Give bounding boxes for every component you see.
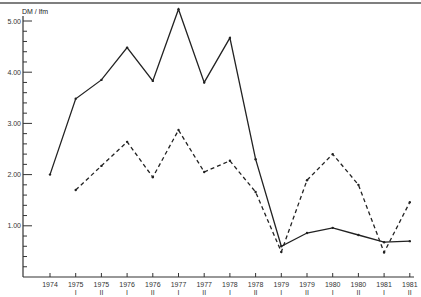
x-tick-label-year: 1974 bbox=[42, 281, 58, 288]
series-solid-line bbox=[50, 9, 410, 246]
x-tick-label-half: I bbox=[332, 289, 334, 296]
data-point bbox=[409, 240, 411, 242]
data-point bbox=[280, 245, 282, 247]
data-point bbox=[126, 46, 128, 48]
line-chart: DM / lfm 5.004.003.002.001.00 19741975I1… bbox=[0, 0, 421, 297]
x-tick-label-year: 1977 bbox=[171, 281, 187, 288]
data-point bbox=[203, 81, 205, 83]
series-layer bbox=[49, 8, 411, 254]
x-tick-label-half: I bbox=[75, 289, 77, 296]
data-point bbox=[306, 232, 308, 234]
x-tick-label-half: I bbox=[229, 289, 231, 296]
x-tick-label-half: II bbox=[254, 289, 258, 296]
x-tick-label-year: 1975 bbox=[94, 281, 110, 288]
data-point bbox=[203, 171, 205, 173]
x-tick-label-year: 1980 bbox=[351, 281, 367, 288]
x-tick-label-half: I bbox=[383, 289, 385, 296]
data-point bbox=[126, 141, 128, 143]
x-tick-label-year: 1975 bbox=[68, 281, 84, 288]
y-tick-label: 5.00 bbox=[7, 18, 21, 25]
data-point bbox=[357, 234, 359, 236]
y-axis: 5.004.003.002.001.00 bbox=[7, 16, 32, 277]
x-tick-label-half: II bbox=[151, 289, 155, 296]
data-point bbox=[332, 153, 334, 155]
y-tick-label: 2.00 bbox=[7, 171, 21, 178]
y-axis-unit-label: DM / lfm bbox=[22, 8, 48, 15]
y-tick-label: 3.00 bbox=[7, 120, 21, 127]
x-tick-label-half: II bbox=[99, 289, 103, 296]
x-tick-label-year: 1977 bbox=[196, 281, 212, 288]
x-axis: 19741975I1975II1976I1976II1977I1977II197… bbox=[23, 273, 418, 296]
data-point bbox=[177, 129, 179, 131]
x-tick-label-year: 1981 bbox=[402, 281, 418, 288]
data-point bbox=[332, 227, 334, 229]
y-tick-label: 1.00 bbox=[7, 222, 21, 229]
data-point bbox=[383, 241, 385, 243]
data-point bbox=[152, 80, 154, 82]
x-tick-label-half: I bbox=[126, 289, 128, 296]
x-tick-label-half: II bbox=[202, 289, 206, 296]
x-tick-label-year: 1976 bbox=[119, 281, 135, 288]
data-point bbox=[280, 251, 282, 253]
data-point bbox=[75, 189, 77, 191]
x-tick-label-half: I bbox=[280, 289, 282, 296]
data-point bbox=[383, 251, 385, 253]
x-tick-label-year: 1979 bbox=[299, 281, 315, 288]
data-point bbox=[49, 173, 51, 175]
data-point bbox=[75, 98, 77, 100]
x-tick-label-year: 1979 bbox=[274, 281, 290, 288]
data-point bbox=[409, 201, 411, 203]
data-point bbox=[100, 79, 102, 81]
x-tick-label-half: II bbox=[305, 289, 309, 296]
x-tick-label-year: 1976 bbox=[145, 281, 161, 288]
data-point bbox=[100, 165, 102, 167]
data-point bbox=[306, 179, 308, 181]
data-point bbox=[229, 37, 231, 39]
data-point bbox=[254, 158, 256, 160]
data-point bbox=[357, 184, 359, 186]
x-tick-label-year: 1978 bbox=[248, 281, 264, 288]
x-tick-label-year: 1980 bbox=[325, 281, 341, 288]
y-tick-label: 4.00 bbox=[7, 69, 21, 76]
x-tick-label-half: II bbox=[356, 289, 360, 296]
series-dashed-line bbox=[76, 130, 410, 252]
data-point bbox=[229, 160, 231, 162]
x-tick-label-half: I bbox=[178, 289, 180, 296]
data-point bbox=[152, 176, 154, 178]
x-tick-label-year: 1981 bbox=[376, 281, 392, 288]
data-point bbox=[177, 8, 179, 10]
x-tick-label-year: 1978 bbox=[222, 281, 238, 288]
x-tick-label-half: II bbox=[408, 289, 412, 296]
data-point bbox=[254, 191, 256, 193]
